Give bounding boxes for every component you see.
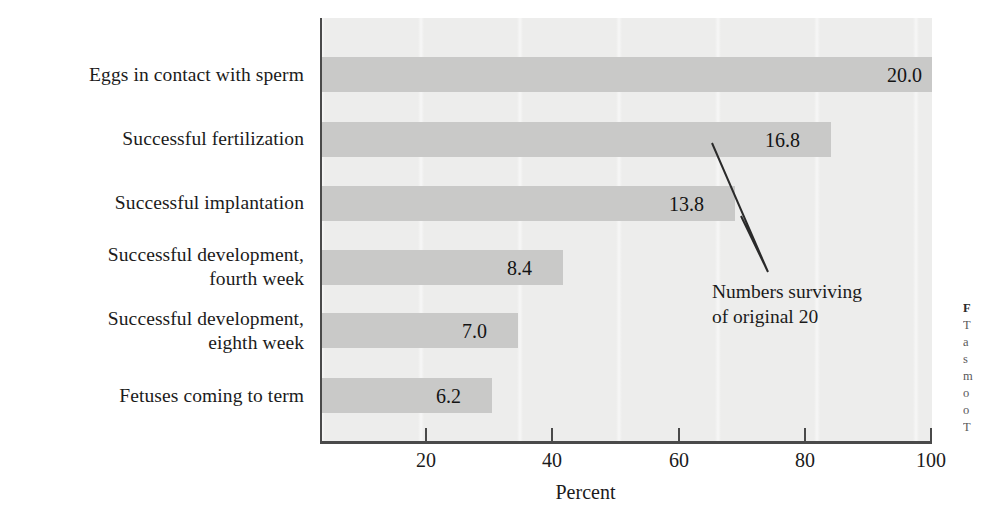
annotation-line: Numbers surviving <box>712 279 862 304</box>
caption-fragment-line: o <box>963 402 981 419</box>
x-axis-tick <box>804 428 806 442</box>
x-axis-line <box>320 441 932 444</box>
category-label: Eggs in contact with sperm <box>4 63 304 87</box>
x-axis-tick-label: 100 <box>916 450 946 470</box>
x-axis-tick <box>930 428 932 442</box>
x-axis-tick-label: 20 <box>416 450 436 470</box>
category-label-line: eighth week <box>4 331 304 355</box>
category-label-line: Eggs in contact with sperm <box>4 63 304 87</box>
bar-fetuses-coming-to-term <box>322 378 492 413</box>
plot-area: 20.0 16.8 13.8 8.4 7.0 6.2 <box>320 18 932 441</box>
category-label: Successful implantation <box>4 191 304 215</box>
category-label-line: Successful development, <box>4 243 304 267</box>
bar-value-label: 13.8 <box>669 194 704 214</box>
x-axis-tick-label: 80 <box>795 450 815 470</box>
annotation-numbers-surviving: Numbers surviving of original 20 <box>712 279 862 329</box>
bar-value-label: 16.8 <box>765 130 800 150</box>
caption-fragment-line: T <box>963 419 981 436</box>
category-label-line: Successful fertilization <box>4 127 304 151</box>
x-axis-title: Percent <box>0 481 981 504</box>
category-label-line: Successful development, <box>4 307 304 331</box>
caption-fragment-line: F <box>963 300 981 317</box>
category-label: Fetuses coming to term <box>4 384 304 408</box>
x-axis-title-text: Percent <box>556 481 616 503</box>
category-axis-labels: Eggs in contact with sperm Successful fe… <box>0 0 312 445</box>
caption-fragment-line: a <box>963 334 981 351</box>
bar-value-label: 8.4 <box>507 258 532 278</box>
bar-value-label: 6.2 <box>436 386 461 406</box>
caption-fragment: F T a s m o o T <box>963 300 981 470</box>
x-axis-tick <box>551 428 553 442</box>
figure-horizontal-bar-chart: Eggs in contact with sperm Successful fe… <box>0 0 981 525</box>
caption-fragment-line: m <box>963 368 981 385</box>
bar-eggs-in-contact-with-sperm <box>322 57 932 92</box>
x-axis-tick <box>425 428 427 442</box>
x-axis-tick <box>678 428 680 442</box>
category-label: Successful development, eighth week <box>4 307 304 355</box>
x-axis-tick-label: 40 <box>542 450 562 470</box>
annotation-line: of original 20 <box>712 304 862 329</box>
category-label-line: fourth week <box>4 267 304 291</box>
category-label-line: Successful implantation <box>4 191 304 215</box>
category-label: Successful fertilization <box>4 127 304 151</box>
caption-fragment-line: T <box>963 317 981 334</box>
category-label-line: Fetuses coming to term <box>4 384 304 408</box>
bar-value-label: 7.0 <box>462 321 487 341</box>
category-label: Successful development, fourth week <box>4 243 304 291</box>
caption-fragment-line: o <box>963 385 981 402</box>
bar-successful-development-eighth-week <box>322 313 518 348</box>
caption-fragment-line: s <box>963 351 981 368</box>
bar-value-label: 20.0 <box>887 65 922 85</box>
x-axis-tick-label: 60 <box>669 450 689 470</box>
bar-successful-fertilization <box>322 122 831 157</box>
